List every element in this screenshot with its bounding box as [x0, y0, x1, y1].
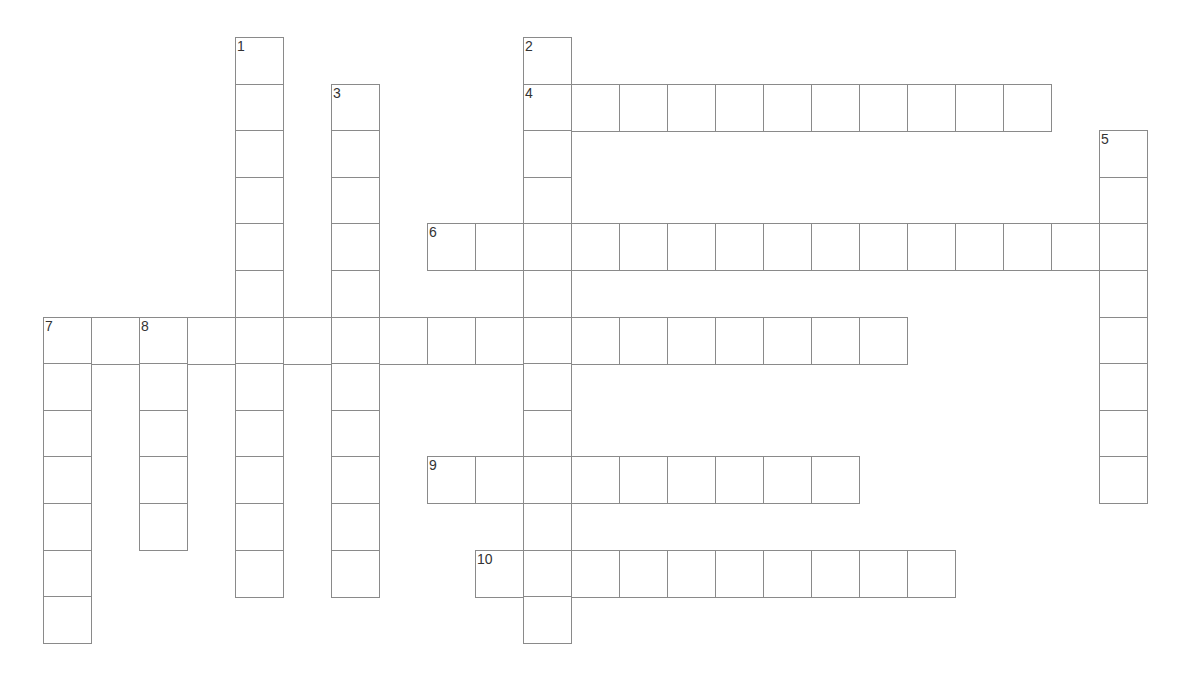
- crossword-cell[interactable]: [475, 223, 524, 271]
- crossword-cell[interactable]: [283, 317, 332, 365]
- crossword-cell[interactable]: [955, 223, 1004, 271]
- crossword-cell[interactable]: [619, 456, 668, 504]
- crossword-cell[interactable]: [331, 410, 380, 458]
- crossword-cell[interactable]: [187, 317, 236, 365]
- crossword-cell[interactable]: [1099, 410, 1148, 458]
- crossword-cell[interactable]: [811, 317, 860, 365]
- crossword-cell[interactable]: [331, 317, 380, 365]
- crossword-cell[interactable]: [523, 270, 572, 318]
- crossword-cell[interactable]: [331, 363, 380, 411]
- crossword-cell[interactable]: [1003, 84, 1052, 132]
- crossword-cell[interactable]: [235, 363, 284, 411]
- crossword-cell[interactable]: [811, 456, 860, 504]
- crossword-cell[interactable]: [235, 84, 284, 132]
- crossword-cell[interactable]: [331, 456, 380, 504]
- crossword-cell[interactable]: [139, 410, 188, 458]
- crossword-cell[interactable]: [619, 317, 668, 365]
- crossword-cell[interactable]: [1099, 223, 1148, 271]
- crossword-cell[interactable]: [859, 550, 908, 598]
- crossword-cell[interactable]: [235, 317, 284, 365]
- crossword-cell[interactable]: [331, 270, 380, 318]
- crossword-cell[interactable]: 8: [139, 317, 188, 365]
- crossword-cell[interactable]: [523, 410, 572, 458]
- crossword-cell[interactable]: [571, 84, 620, 132]
- crossword-cell[interactable]: [715, 223, 764, 271]
- crossword-cell[interactable]: [859, 317, 908, 365]
- crossword-cell[interactable]: 5: [1099, 130, 1148, 178]
- crossword-cell[interactable]: 3: [331, 84, 380, 132]
- crossword-cell[interactable]: 2: [523, 37, 572, 85]
- crossword-cell[interactable]: [235, 130, 284, 178]
- crossword-cell[interactable]: [907, 84, 956, 132]
- crossword-cell[interactable]: [667, 84, 716, 132]
- crossword-cell[interactable]: [475, 317, 524, 365]
- crossword-cell[interactable]: [43, 596, 92, 644]
- crossword-cell[interactable]: 9: [427, 456, 476, 504]
- crossword-cell[interactable]: [331, 177, 380, 225]
- crossword-cell[interactable]: [523, 550, 572, 598]
- crossword-cell[interactable]: [235, 223, 284, 271]
- crossword-cell[interactable]: [1051, 223, 1100, 271]
- crossword-cell[interactable]: [235, 177, 284, 225]
- crossword-cell[interactable]: [139, 456, 188, 504]
- crossword-cell[interactable]: [907, 550, 956, 598]
- crossword-cell[interactable]: [43, 363, 92, 411]
- crossword-cell[interactable]: [331, 130, 380, 178]
- crossword-cell[interactable]: [571, 456, 620, 504]
- crossword-cell[interactable]: [43, 550, 92, 598]
- crossword-cell[interactable]: [763, 223, 812, 271]
- crossword-cell[interactable]: [331, 503, 380, 551]
- crossword-cell[interactable]: [427, 317, 476, 365]
- crossword-cell[interactable]: [571, 317, 620, 365]
- crossword-cell[interactable]: [955, 84, 1004, 132]
- crossword-cell[interactable]: [331, 223, 380, 271]
- crossword-cell[interactable]: [763, 550, 812, 598]
- crossword-cell[interactable]: [43, 503, 92, 551]
- crossword-cell[interactable]: [763, 456, 812, 504]
- crossword-cell[interactable]: [715, 317, 764, 365]
- crossword-cell[interactable]: [475, 456, 524, 504]
- crossword-cell[interactable]: [811, 84, 860, 132]
- crossword-cell[interactable]: [523, 363, 572, 411]
- crossword-cell[interactable]: [619, 550, 668, 598]
- crossword-cell[interactable]: [619, 84, 668, 132]
- crossword-cell[interactable]: [523, 177, 572, 225]
- crossword-cell[interactable]: [667, 550, 716, 598]
- crossword-cell[interactable]: [859, 84, 908, 132]
- crossword-cell[interactable]: [811, 223, 860, 271]
- crossword-cell[interactable]: [43, 456, 92, 504]
- crossword-cell[interactable]: [715, 84, 764, 132]
- crossword-cell[interactable]: 1: [235, 37, 284, 85]
- crossword-cell[interactable]: [715, 456, 764, 504]
- crossword-cell[interactable]: [571, 223, 620, 271]
- crossword-cell[interactable]: [667, 456, 716, 504]
- crossword-cell[interactable]: [523, 223, 572, 271]
- crossword-cell[interactable]: [139, 363, 188, 411]
- crossword-cell[interactable]: 7: [43, 317, 92, 365]
- crossword-cell[interactable]: 10: [475, 550, 524, 598]
- crossword-cell[interactable]: [43, 410, 92, 458]
- crossword-cell[interactable]: [235, 270, 284, 318]
- crossword-cell[interactable]: [379, 317, 428, 365]
- crossword-cell[interactable]: [715, 550, 764, 598]
- crossword-cell[interactable]: 4: [523, 84, 572, 132]
- crossword-cell[interactable]: [907, 223, 956, 271]
- crossword-cell[interactable]: [523, 130, 572, 178]
- crossword-cell[interactable]: [235, 456, 284, 504]
- crossword-cell[interactable]: [811, 550, 860, 598]
- crossword-cell[interactable]: [91, 317, 140, 365]
- crossword-cell[interactable]: 6: [427, 223, 476, 271]
- crossword-cell[interactable]: [1099, 363, 1148, 411]
- crossword-cell[interactable]: [667, 223, 716, 271]
- crossword-cell[interactable]: [1099, 317, 1148, 365]
- crossword-cell[interactable]: [331, 550, 380, 598]
- crossword-cell[interactable]: [1003, 223, 1052, 271]
- crossword-cell[interactable]: [235, 410, 284, 458]
- crossword-cell[interactable]: [235, 503, 284, 551]
- crossword-cell[interactable]: [619, 223, 668, 271]
- crossword-cell[interactable]: [1099, 177, 1148, 225]
- crossword-cell[interactable]: [139, 503, 188, 551]
- crossword-cell[interactable]: [1099, 270, 1148, 318]
- crossword-cell[interactable]: [523, 503, 572, 551]
- crossword-cell[interactable]: [667, 317, 716, 365]
